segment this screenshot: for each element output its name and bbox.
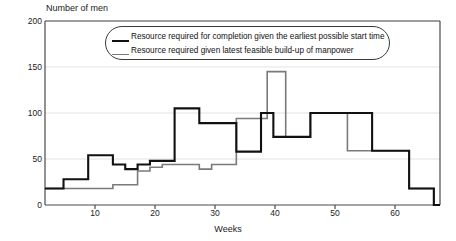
legend-item-latest-feasible: Resource required given latest feasible … (112, 43, 354, 58)
legend-item-earliest-start: Resource required for completion given t… (112, 29, 384, 44)
x-tick-60: 60 (382, 208, 408, 218)
series-line-latest-feasible (45, 72, 440, 205)
legend-swatch-gray-line-icon (112, 46, 129, 55)
x-axis-ticks (95, 205, 395, 209)
legend-swatch-black-line-icon (112, 32, 129, 42)
chart-container: Number of men 200 150 100 50 0 (0, 0, 456, 241)
x-tick-10: 10 (82, 208, 108, 218)
x-axis-title: Weeks (0, 224, 456, 234)
x-tick-40: 40 (262, 208, 288, 218)
x-tick-30: 30 (202, 208, 228, 218)
chart-legend: Resource required for completion given t… (105, 26, 390, 60)
x-tick-50: 50 (322, 208, 348, 218)
series-line-earliest-start (45, 108, 440, 205)
x-tick-20: 20 (142, 208, 168, 218)
legend-label-latest-feasible: Resource required given latest feasible … (131, 46, 354, 55)
legend-label-earliest-start: Resource required for completion given t… (131, 32, 384, 41)
